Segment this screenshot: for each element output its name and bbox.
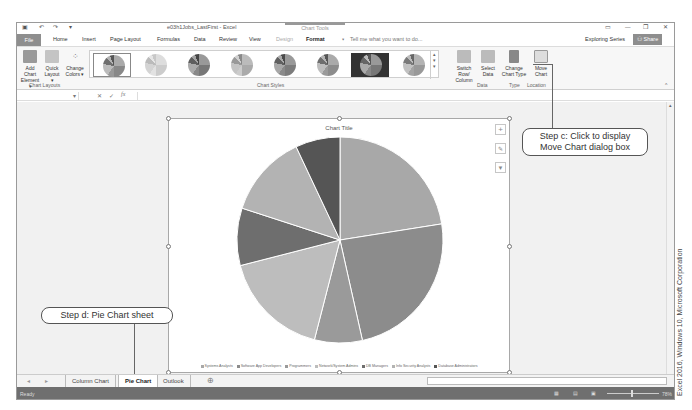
vertical-scrollbar[interactable]: ▴ bbox=[666, 102, 674, 374]
legend-entry[interactable]: Programmers bbox=[285, 364, 311, 368]
undo-icon[interactable]: ↶ bbox=[39, 24, 44, 30]
legend-entry[interactable]: Software App Developers bbox=[237, 364, 282, 368]
add-chart-element-icon bbox=[23, 50, 37, 63]
sheet-tab-outlook[interactable]: Outlook bbox=[157, 375, 191, 387]
tab-design[interactable]: Design bbox=[276, 36, 293, 42]
tab-data[interactable]: Data bbox=[194, 36, 206, 42]
chart-style-6[interactable] bbox=[308, 53, 346, 77]
lightbulb-icon: ♀ bbox=[341, 36, 345, 42]
status-ready: Ready bbox=[20, 391, 34, 397]
formula-input[interactable] bbox=[137, 92, 667, 100]
chart-styles-gallery: ▴▾▾ bbox=[89, 50, 439, 78]
chart-style-7[interactable] bbox=[351, 53, 389, 77]
next-sheet-icon[interactable]: ▸ bbox=[45, 375, 48, 387]
gallery-scroll[interactable]: ▴▾▾ bbox=[430, 51, 438, 79]
callout-step-d: Step d: Pie Chart sheet bbox=[41, 307, 173, 324]
zoom-level[interactable]: 78% bbox=[662, 391, 672, 397]
legend-entry[interactable]: Network/System Admins bbox=[315, 364, 358, 368]
page-layout-view-icon[interactable]: ▤ bbox=[573, 390, 578, 396]
legend-swatch bbox=[362, 365, 365, 368]
callout-step-c-line-1: Step c: Click to display bbox=[529, 131, 641, 142]
resize-handle-right[interactable] bbox=[507, 244, 512, 249]
legend-entry[interactable]: Info Security Analysts bbox=[392, 364, 430, 368]
change-chart-type-button[interactable]: Change Chart Type bbox=[501, 50, 527, 77]
legend-label: Software App Developers bbox=[241, 364, 282, 368]
tab-review[interactable]: Review bbox=[219, 36, 237, 42]
change-chart-type-label-2: Chart Type bbox=[501, 71, 527, 77]
resize-handle-tl[interactable] bbox=[166, 116, 171, 121]
sheet-tab-pie-chart[interactable]: Pie Chart bbox=[118, 375, 158, 387]
change-colors-button[interactable]: ⁘ Change Colors ▾ bbox=[65, 50, 85, 77]
prev-sheet-icon[interactable]: ◂ bbox=[27, 375, 30, 387]
redo-icon[interactable]: ↷ bbox=[53, 24, 58, 30]
horizontal-scrollbar[interactable] bbox=[427, 377, 667, 385]
resize-handle-top[interactable] bbox=[337, 116, 342, 121]
ribbon-display-options-icon[interactable]: ▭ bbox=[605, 24, 611, 30]
resize-handle-left[interactable] bbox=[166, 244, 171, 249]
callout-step-c-line-2: Move Chart dialog box bbox=[529, 142, 641, 153]
resize-handle-tr[interactable] bbox=[507, 116, 512, 121]
legend-swatch bbox=[285, 365, 288, 368]
quick-layout-button[interactable]: Quick Layout ▾ bbox=[43, 50, 61, 83]
chart-filters-icon[interactable]: ▼ bbox=[495, 162, 506, 173]
legend-label: Network/System Admins bbox=[319, 364, 358, 368]
move-chart-label-2: Chart bbox=[531, 71, 551, 77]
pie-slice-systems-analysts[interactable] bbox=[340, 137, 442, 240]
cancel-icon[interactable]: ✕ bbox=[97, 92, 102, 99]
restore-icon[interactable]: ❐ bbox=[643, 24, 648, 30]
switch-row-column-button[interactable]: Switch Row/ Column bbox=[451, 50, 477, 83]
add-chart-element-label-1: Add Chart bbox=[19, 65, 41, 77]
normal-view-icon[interactable]: ▦ bbox=[554, 390, 559, 396]
sheet-tab-column-chart[interactable]: Column Chart bbox=[65, 375, 116, 387]
legend-entry[interactable]: DB Managers bbox=[362, 364, 388, 368]
select-data-button[interactable]: Select Data bbox=[479, 50, 497, 77]
user-name[interactable]: Exploring Series bbox=[585, 36, 625, 42]
chart-elements-button[interactable]: + bbox=[495, 124, 506, 135]
customize-quick-access-icon[interactable]: ▾ bbox=[69, 24, 72, 30]
tab-home[interactable]: Home bbox=[53, 36, 68, 42]
zoom-slider[interactable] bbox=[607, 393, 659, 394]
chart-style-2[interactable] bbox=[136, 53, 174, 77]
chart-styles-brush-icon[interactable]: ✎ bbox=[495, 143, 506, 154]
callout-connector-c-h bbox=[533, 64, 553, 65]
formula-bar: ▾ ✕ ✓ fx bbox=[17, 91, 674, 101]
chart-style-5[interactable] bbox=[265, 53, 303, 77]
enter-icon[interactable]: ✓ bbox=[109, 92, 114, 99]
page-break-view-icon[interactable]: ▣ bbox=[591, 390, 596, 396]
chart-style-8[interactable] bbox=[394, 53, 432, 77]
tell-me-search[interactable]: Tell me what you want to do... bbox=[350, 36, 422, 42]
chart-style-1[interactable] bbox=[93, 53, 131, 77]
chart-style-3[interactable] bbox=[179, 53, 217, 77]
save-icon[interactable]: ▣ bbox=[22, 24, 28, 30]
insert-function-icon[interactable]: fx bbox=[121, 91, 125, 97]
quick-layout-icon bbox=[45, 50, 59, 63]
new-sheet-button[interactable]: ⊕ bbox=[207, 375, 214, 387]
tab-file[interactable]: File bbox=[17, 34, 41, 46]
tab-page-layout[interactable]: Page Layout bbox=[110, 36, 141, 42]
switch-row-column-icon bbox=[457, 50, 471, 63]
close-icon[interactable]: ✕ bbox=[663, 24, 668, 30]
tab-format[interactable]: Format bbox=[306, 36, 325, 42]
scroll-up-icon[interactable]: ▴ bbox=[667, 102, 674, 108]
document-title: e03h1Jobs_LastFirst - Excel bbox=[167, 24, 236, 30]
legend-entry[interactable]: Systems Analysts bbox=[201, 364, 233, 368]
tab-insert[interactable]: Insert bbox=[82, 36, 96, 42]
change-chart-type-icon bbox=[509, 50, 519, 63]
chart-area[interactable]: Chart Title Systems AnalystsSoftware App… bbox=[168, 118, 510, 373]
tab-formulas[interactable]: Formulas bbox=[157, 36, 180, 42]
legend-entry[interactable]: Database Administrators bbox=[434, 364, 477, 368]
switch-label-2: Column bbox=[451, 77, 477, 83]
minimize-icon[interactable]: — bbox=[625, 24, 631, 30]
chart-legend[interactable]: Systems AnalystsSoftware App DevelopersP… bbox=[169, 364, 509, 368]
name-box[interactable]: ▾ bbox=[21, 92, 79, 100]
legend-swatch bbox=[237, 365, 240, 368]
legend-label: Database Administrators bbox=[438, 364, 477, 368]
zoom-slider-thumb[interactable] bbox=[631, 390, 633, 397]
chart-style-4[interactable] bbox=[222, 53, 260, 77]
move-chart-icon bbox=[534, 50, 548, 63]
tab-view[interactable]: View bbox=[249, 36, 261, 42]
collapse-ribbon-icon[interactable]: ^ bbox=[665, 82, 667, 88]
callout-step-c: Step c: Click to display Move Chart dial… bbox=[522, 128, 648, 156]
ribbon: Add Chart Element ▾ Quick Layout ▾ ⁘ Cha… bbox=[17, 46, 674, 90]
share-button[interactable]: ⚇ Share bbox=[633, 34, 662, 45]
